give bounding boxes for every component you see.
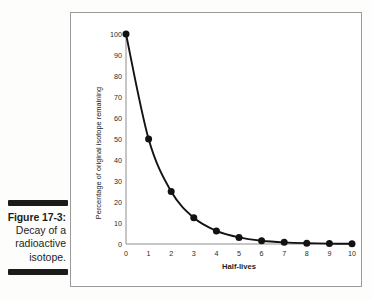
x-tick-label: 9 <box>327 249 331 258</box>
data-point <box>349 240 356 247</box>
y-tick-label: 60 <box>114 114 122 123</box>
data-point <box>258 237 265 244</box>
x-tick-label: 3 <box>192 249 196 258</box>
data-point <box>303 240 310 247</box>
y-tick-label: 30 <box>114 177 122 186</box>
figure-caption-text: Figure 17-3: Decay of a radioactive isot… <box>6 211 68 264</box>
data-point <box>190 214 197 221</box>
data-point <box>281 239 288 246</box>
data-point <box>123 31 130 38</box>
decay-chart: Percentage of original isotope remaining… <box>71 13 363 288</box>
y-tick-label: 50 <box>114 135 122 144</box>
decay-curve <box>126 34 352 244</box>
x-tick-label: 7 <box>282 249 286 258</box>
figure-number-label: Figure 17-3: <box>6 211 66 224</box>
y-tick-label: 40 <box>114 156 122 165</box>
x-tick-label: 1 <box>147 249 151 258</box>
caption-line-1: Decay of a <box>6 224 66 237</box>
figure-frame: Percentage of original isotope remaining… <box>70 12 362 287</box>
data-point <box>168 188 175 195</box>
data-point-markers <box>123 31 356 248</box>
y-tick-label: 0 <box>118 240 122 249</box>
y-tick-label: 10 <box>114 219 122 228</box>
y-axis-title: Percentage of original isotope remaining <box>94 87 103 219</box>
data-point <box>145 136 152 143</box>
x-axis-title-label: Half-lives <box>222 262 256 271</box>
figure-caption-block: Figure 17-3: Decay of a radioactive isot… <box>6 200 68 275</box>
y-tick-label: 80 <box>114 72 122 81</box>
y-tick-label: 90 <box>114 51 122 60</box>
x-tick-label: 4 <box>214 249 218 258</box>
x-tick-label: 6 <box>260 249 264 258</box>
y-tick-labels: 0102030405060708090100 <box>110 30 122 249</box>
figure-page: Figure 17-3: Decay of a radioactive isot… <box>0 0 372 299</box>
y-axis-title-label: Percentage of original isotope remaining <box>94 87 103 219</box>
caption-rule-bottom <box>8 269 68 275</box>
x-tick-label: 10 <box>348 249 356 258</box>
data-point <box>213 227 220 234</box>
caption-line-2: radioactive <box>6 237 66 250</box>
data-point <box>326 240 333 247</box>
x-tick-label: 5 <box>237 249 241 258</box>
y-tick-label: 70 <box>114 93 122 102</box>
caption-line-3: isotope. <box>6 251 66 264</box>
y-tick-label: 20 <box>114 198 122 207</box>
x-tick-label: 2 <box>169 249 173 258</box>
x-tick-labels: 012345678910 <box>124 249 356 258</box>
y-tick-label: 100 <box>110 30 122 39</box>
x-tick-label: 0 <box>124 249 128 258</box>
x-tick-label: 8 <box>305 249 309 258</box>
data-point <box>236 234 243 241</box>
caption-rule-top <box>8 200 68 206</box>
